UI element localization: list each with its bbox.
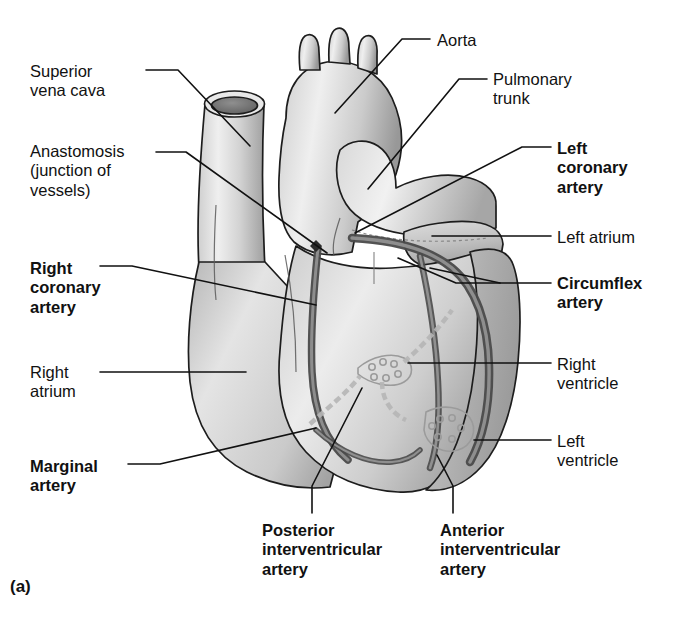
figure-canvas: Superior vena cavaAnastomosis (junction … [0,0,693,627]
label-marginal-artery: Marginal artery [30,457,98,496]
label-right-atrium: Right atrium [30,363,76,402]
label-right-ventricle: Right ventricle [557,355,618,394]
label-anastomosis: Anastomosis (junction of vessels) [30,142,124,200]
label-anterior-interventricular-artery: Anterior interventricular artery [440,521,560,579]
label-left-atrium: Left atrium [557,228,635,247]
label-right-coronary-artery: Right coronary artery [30,259,101,317]
label-posterior-interventricular-artery: Posterior interventricular artery [262,521,382,579]
figure-caption: (a) [10,577,31,597]
label-circumflex-artery: Circumflex artery [557,274,642,313]
label-left-coronary-artery: Left coronary artery [557,139,628,197]
label-left-ventricle: Left ventricle [557,432,618,471]
label-pulmonary-trunk: Pulmonary trunk [493,70,572,109]
label-aorta: Aorta [437,31,476,50]
label-superior-vena-cava: Superior vena cava [30,62,105,101]
